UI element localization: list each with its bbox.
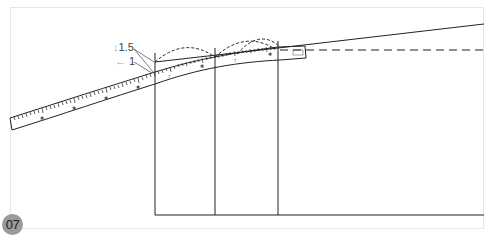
svg-text:✱: ✱ (268, 51, 272, 57)
leader-lines (134, 49, 154, 73)
svg-text:↕: ↕ (168, 73, 171, 79)
svg-text:✱: ✱ (104, 95, 108, 101)
extended-line (278, 24, 484, 48)
down-measure-label: ↓1.5 (113, 41, 134, 53)
figure-number-badge: 07 (2, 214, 23, 235)
svg-text:✱: ✱ (40, 115, 44, 121)
svg-text:✱: ✱ (72, 105, 76, 111)
svg-text:✱: ✱ (136, 84, 140, 90)
left-arrow-icon: ← (115, 55, 126, 67)
svg-text:✱: ✱ (200, 63, 204, 69)
curved-ruler: ✱ ✱ ✱ ✱ ↕ ✱ ↕ ✱ (10, 46, 306, 130)
pattern-diagram: ✱ ✱ ✱ ✱ ↕ ✱ ↕ ✱ (0, 0, 489, 236)
svg-text:↕: ↕ (234, 57, 237, 63)
left-measure-label: ← 1 (115, 55, 135, 67)
